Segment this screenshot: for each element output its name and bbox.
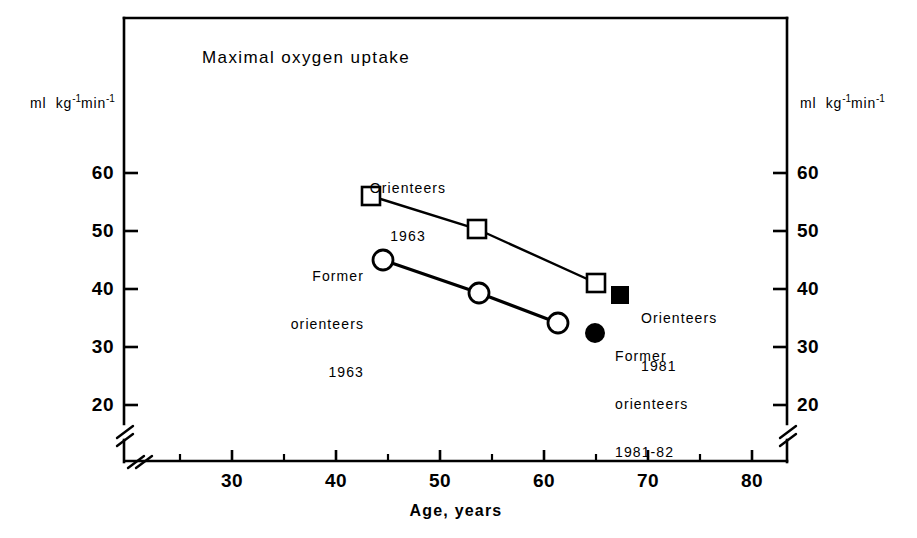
chart-figure: Maximal oxygen uptake ml kg-1min-1 ml kg… xyxy=(0,0,917,538)
y-tick-label-right-60: 60 xyxy=(797,162,845,184)
annotation-former-orienteers-1981-82-line1: Former xyxy=(615,348,785,364)
annotation-former-orienteers-1981-82-line2: orienteers xyxy=(615,396,785,412)
y-unit-min-right: min xyxy=(851,95,876,111)
x-tick-label-30: 30 xyxy=(204,470,260,492)
y-unit-ml-right: ml xyxy=(800,95,816,111)
annotation-former-orienteers-1963-line2: orienteers xyxy=(218,316,364,332)
y-tick-label-right-40: 40 xyxy=(797,278,845,300)
y-tick-label-50: 50 xyxy=(66,220,114,242)
y-tick-label-60: 60 xyxy=(66,162,114,184)
x-tick-label-50: 50 xyxy=(412,470,468,492)
y-tick-label-20: 20 xyxy=(66,394,114,416)
annotation-former-orienteers-1981-82-line3: 1981-82 xyxy=(615,444,785,460)
marker-open-square-3 xyxy=(587,274,605,292)
y-tick-label-40: 40 xyxy=(66,278,114,300)
y-unit-ml-left: ml xyxy=(30,95,46,111)
y-tick-label-30: 30 xyxy=(66,336,114,358)
y-tick-label-right-30: 30 xyxy=(797,336,845,358)
x-tick-label-60: 60 xyxy=(516,470,572,492)
y-tick-label-right-20: 20 xyxy=(797,394,845,416)
chart-title: Maximal oxygen uptake xyxy=(202,48,410,68)
y-axis-ticks-left xyxy=(124,173,138,405)
y-unit-min-left: min xyxy=(81,95,106,111)
annotation-former-orienteers-1963-line1: Former xyxy=(218,268,364,284)
y-unit-min-exp-left: -1 xyxy=(106,93,115,104)
y-unit-kg-right: kg xyxy=(826,95,842,111)
y-unit-kg-exp-right: -1 xyxy=(842,93,851,104)
annotation-former-orienteers-1963-line3: 1963 xyxy=(218,364,364,380)
y-unit-kg-exp-left: -1 xyxy=(72,93,81,104)
marker-open-circle-3 xyxy=(548,313,568,333)
marker-filled-square-1 xyxy=(611,286,629,304)
annotation-former-orienteers-1963: Former orienteers 1963 xyxy=(218,236,364,412)
x-tick-label-40: 40 xyxy=(308,470,364,492)
y-unit-kg-left: kg xyxy=(56,95,72,111)
y-axis-unit-right: ml kg-1min-1 xyxy=(800,93,885,111)
annotation-orienteers-1963-line1: Orienteers xyxy=(333,180,483,196)
marker-filled-circle-1 xyxy=(585,323,605,343)
y-unit-min-exp-right: -1 xyxy=(876,93,885,104)
y-tick-label-right-50: 50 xyxy=(797,220,845,242)
annotation-former-orienteers-1981-82: Former orienteers 1981-82 xyxy=(615,316,785,492)
x-axis-title: Age, years xyxy=(356,502,556,520)
marker-open-circle-2 xyxy=(469,283,489,303)
y-axis-unit-left: ml kg-1min-1 xyxy=(30,93,115,111)
series-marker-former-orienteers-1981-82 xyxy=(585,323,605,343)
series-marker-orienteers-1981 xyxy=(611,286,629,304)
